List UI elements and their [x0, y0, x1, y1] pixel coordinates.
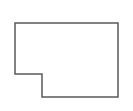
diagram-canvas [0, 0, 133, 111]
l-shape-outline [15, 23, 118, 97]
